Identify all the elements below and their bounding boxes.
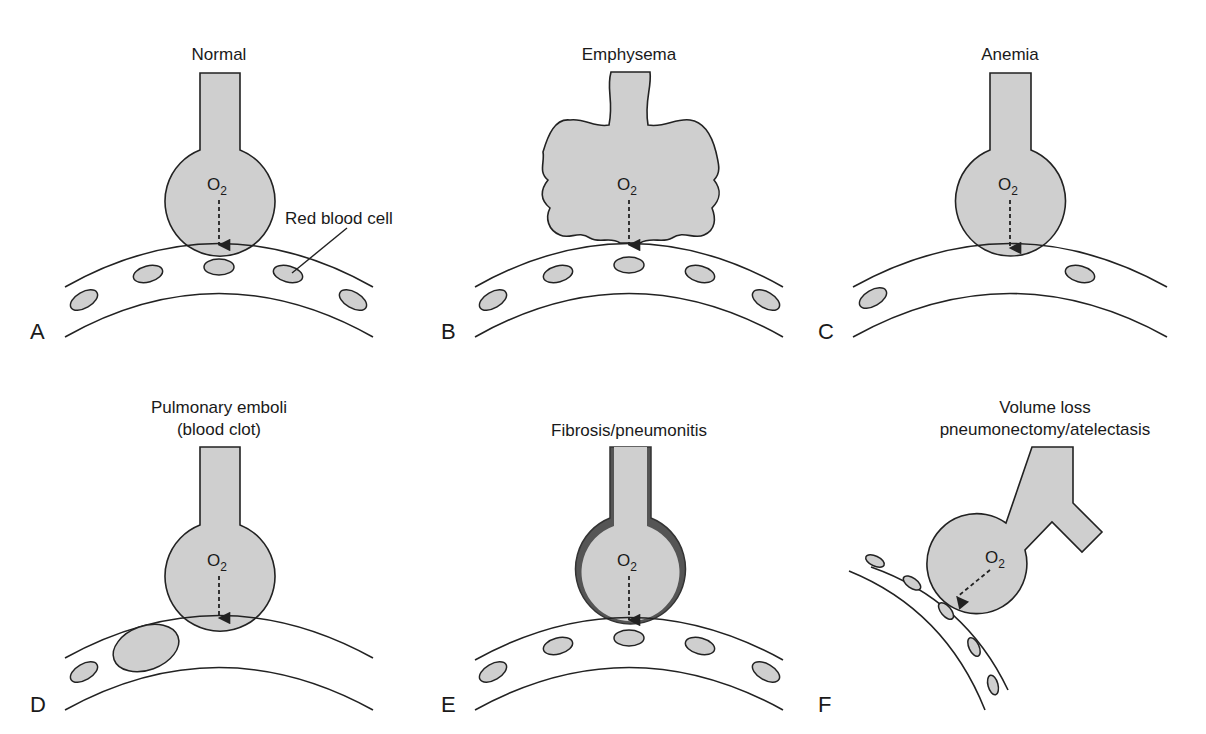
alveolus	[165, 447, 275, 631]
capillary-lower-wall	[475, 294, 783, 338]
panel-letter: E	[441, 692, 456, 717]
alveolus	[165, 73, 275, 256]
panel-letter: B	[441, 319, 456, 344]
panel-title: Anemia	[981, 45, 1039, 64]
panel-letter: A	[30, 319, 45, 344]
leader-line	[292, 228, 347, 273]
capillary-lower-wall	[65, 294, 373, 338]
panel-subtitle: (blood clot)	[177, 420, 261, 439]
red-blood-cell	[67, 658, 101, 687]
panel-f: Volume loss pneumonectomy/atelectasis O2…	[818, 398, 1150, 717]
panel-b: Emphysema O2 B	[441, 45, 783, 344]
panel-c: Anemia O2 C	[818, 45, 1167, 344]
panel-title: Volume loss	[999, 398, 1091, 417]
capillary-lower-wall	[475, 668, 783, 711]
panel-a: Normal O2 Red blood cell A	[30, 45, 393, 344]
panel-subtitle: pneumonectomy/atelectasis	[940, 420, 1151, 439]
panel-e: Fibrosis/pneumonitis O2 E	[441, 421, 783, 717]
panel-letter: D	[30, 692, 46, 717]
panel-title: Normal	[192, 45, 247, 64]
capillary-lower-wall	[853, 294, 1167, 338]
panel-letter: C	[818, 319, 834, 344]
capillary-lower-wall	[65, 668, 373, 711]
red-blood-cells	[856, 262, 1097, 312]
panel-title: Fibrosis/pneumonitis	[551, 421, 707, 440]
diagram-canvas: Normal O2 Red blood cell A Emphysema O2	[0, 0, 1206, 734]
panel-letter: F	[818, 692, 831, 717]
panel-title: Pulmonary emboli	[151, 398, 287, 417]
panel-d: Pulmonary emboli (blood clot) O2 D	[30, 398, 373, 717]
panel-title: Emphysema	[582, 45, 677, 64]
red-blood-cell-label: Red blood cell	[285, 209, 393, 228]
alveolus-emphysematous	[542, 72, 719, 243]
red-blood-cells	[67, 259, 370, 314]
alveolus-branching	[927, 447, 1102, 614]
